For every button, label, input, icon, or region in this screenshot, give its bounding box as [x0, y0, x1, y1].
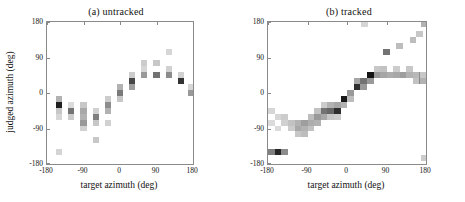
panel-b-xaxis-title: target azimuth (deg)	[308, 180, 385, 190]
x-tick	[347, 22, 348, 25]
x-tick-label: 180	[419, 166, 430, 175]
panel-a-xaxis-title: target azimuth (deg)	[81, 180, 158, 190]
heatmap-cell	[268, 108, 275, 114]
heatmap-cell	[105, 108, 111, 114]
x-tick-label: 90	[382, 166, 390, 175]
y-tick-label: 0	[24, 88, 43, 97]
x-tick-label: -90	[302, 166, 312, 175]
y-tick	[47, 93, 50, 94]
heatmap-cell	[268, 120, 275, 126]
heatmap-cell	[166, 66, 172, 72]
heatmap-cell	[153, 60, 159, 66]
x-tick	[84, 22, 85, 25]
heatmap-cell	[56, 114, 62, 120]
heatmap-cell	[275, 149, 282, 155]
heatmap-cell	[93, 108, 99, 114]
x-tick-label: 0	[344, 166, 348, 175]
heatmap-cell	[374, 66, 381, 72]
panel-a-title: (a) untracked	[0, 6, 232, 17]
heatmap-cell	[56, 96, 62, 102]
x-tick	[426, 22, 427, 25]
heatmap-cell	[393, 72, 400, 78]
heatmap-cell	[393, 66, 400, 72]
heatmap-cell	[141, 72, 147, 78]
heatmap-cell	[396, 43, 403, 49]
y-tick-label: 90	[24, 52, 43, 61]
heatmap-cell	[166, 72, 172, 78]
heatmap-cell	[93, 137, 99, 143]
heatmap-cell	[361, 22, 368, 27]
heatmap-cell	[295, 131, 302, 137]
heatmap-cell	[281, 120, 288, 126]
heatmap-cell	[354, 78, 361, 84]
panel-a-plot-area	[46, 21, 194, 165]
heatmap-cell	[178, 78, 184, 84]
heatmap-cell	[406, 72, 413, 78]
heatmap-cell	[117, 84, 123, 90]
heatmap-cell	[380, 66, 387, 72]
heatmap-cell	[188, 84, 193, 90]
y-tick	[47, 163, 50, 164]
heatmap-cell	[387, 72, 394, 78]
heatmap-cell	[354, 84, 361, 90]
x-tick	[193, 22, 194, 25]
heatmap-cell	[166, 49, 172, 55]
y-tick	[268, 22, 271, 23]
heatmap-cell	[129, 72, 135, 78]
heatmap-cell	[421, 155, 426, 161]
x-tick	[308, 22, 309, 25]
x-tick-label: 0	[117, 166, 121, 175]
y-tick-label: 180	[245, 17, 264, 26]
heatmap-cell	[416, 31, 423, 37]
y-tick	[47, 22, 50, 23]
heatmap-cell	[419, 78, 426, 84]
y-tick-label: -90	[245, 123, 264, 132]
y-tick	[47, 129, 50, 130]
heatmap-cell	[105, 96, 111, 102]
x-tick-label: 90	[152, 166, 160, 175]
heatmap-cell	[406, 66, 413, 72]
heatmap-cell	[400, 72, 407, 78]
x-tick	[157, 22, 158, 25]
heatmap-cell	[275, 114, 282, 120]
heatmap-cell	[347, 96, 354, 102]
heatmap-cell	[360, 84, 367, 90]
y-tick-label: -180	[245, 159, 264, 168]
heatmap-cell	[275, 126, 282, 132]
heatmap-cell	[410, 37, 417, 43]
heatmap-cell	[327, 102, 334, 108]
x-tick-label: -90	[78, 166, 88, 175]
y-tick-label: 0	[245, 88, 264, 97]
heatmap-cell	[68, 114, 74, 120]
y-tick-label: -90	[24, 123, 43, 132]
heatmap-cell	[188, 90, 193, 96]
heatmap-cell	[80, 102, 86, 108]
heatmap-cell	[334, 114, 341, 120]
panel-a-yaxis-title: judged azimuth (deg)	[5, 51, 15, 132]
heatmap-cell	[117, 96, 123, 102]
heatmap-cell	[301, 131, 308, 137]
heatmap-cell	[321, 102, 328, 108]
heatmap-cell	[383, 49, 390, 55]
heatmap-cell	[141, 66, 147, 72]
figure-container: (a) untracked target azimuth (deg) judge…	[0, 0, 465, 202]
heatmap-cell	[374, 72, 381, 78]
heatmap-cell	[367, 78, 374, 84]
heatmap-cell	[327, 114, 334, 120]
heatmap-cell	[93, 120, 99, 126]
y-tick-label: -180	[24, 159, 43, 168]
heatmap-cell	[314, 120, 321, 126]
heatmap-cell	[56, 149, 62, 155]
heatmap-cell	[314, 108, 321, 114]
y-tick-label: 180	[24, 17, 43, 26]
heatmap-cell	[153, 72, 159, 78]
heatmap-cell	[321, 114, 328, 120]
y-tick	[268, 163, 271, 164]
heatmap-cell	[178, 72, 184, 78]
y-tick	[268, 93, 271, 94]
y-tick	[47, 58, 50, 59]
heatmap-cell	[129, 84, 135, 90]
panel-tracked: (b) tracked target azimuth (deg) -180-90…	[233, 0, 465, 202]
y-tick	[268, 58, 271, 59]
heatmap-cell	[68, 102, 74, 108]
